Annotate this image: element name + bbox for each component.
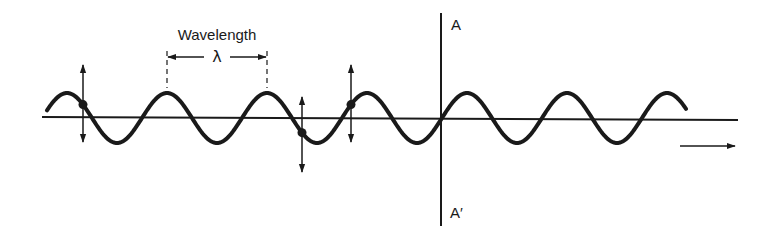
particle-dot-icon (347, 100, 356, 109)
wavelength-annotation: Wavelength λ (167, 26, 267, 88)
transverse-wave-diagram: A A′ Wavelength λ (0, 0, 780, 243)
plane-label-a: A (451, 16, 461, 33)
lambda-symbol: λ (212, 47, 221, 66)
plane-label-a-prime: A′ (450, 204, 463, 221)
wavelength-label: Wavelength (178, 26, 257, 43)
particle-dot-icon (79, 100, 88, 109)
particle-dot-icon (298, 128, 307, 137)
